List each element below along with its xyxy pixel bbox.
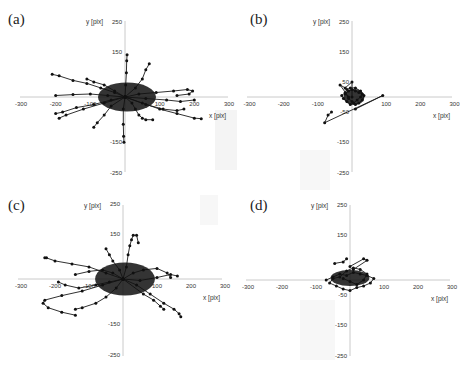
data-point (342, 288, 345, 291)
y-tick-label: 150 (112, 49, 123, 55)
data-point (176, 109, 179, 112)
x-tick-label: -100 (312, 101, 325, 107)
data-point (152, 299, 155, 302)
y-tick-label: -250 (110, 170, 123, 176)
data-point (127, 253, 130, 256)
data-point (372, 277, 375, 280)
x-tick-label: 300 (449, 101, 460, 107)
panel-label: (d) (250, 197, 268, 214)
x-axis-title: x [pix] (209, 112, 226, 120)
y-axis-title: y [pix] (84, 202, 101, 210)
data-point (342, 260, 345, 263)
data-point (111, 259, 114, 262)
y-tick-label: -250 (108, 352, 121, 358)
x-tick-label: 300 (224, 101, 235, 107)
data-point (169, 276, 172, 279)
data-point (74, 273, 77, 276)
dense-cluster (98, 82, 156, 111)
data-point (54, 112, 57, 115)
data-point (193, 117, 196, 120)
data-point (103, 114, 106, 117)
data-point (142, 293, 145, 296)
dense-cluster (343, 89, 364, 105)
data-point (94, 302, 97, 305)
data-point (108, 253, 111, 256)
scan-noise (200, 110, 335, 360)
data-point (156, 267, 159, 270)
data-point (141, 117, 144, 120)
data-point (325, 279, 328, 282)
data-point (74, 308, 77, 311)
data-point (75, 106, 78, 109)
data-point (351, 80, 354, 83)
data-point (349, 86, 352, 89)
data-point (103, 83, 106, 86)
data-point (178, 312, 181, 315)
data-point (362, 257, 365, 260)
data-point (81, 306, 84, 309)
y-tick-label: -150 (337, 139, 350, 145)
y-axis-title: y [pix] (86, 18, 103, 26)
data-point (85, 82, 88, 85)
data-point (328, 282, 331, 285)
data-point (144, 118, 147, 121)
data-point (149, 293, 152, 296)
data-point (166, 271, 169, 274)
data-point (88, 265, 91, 268)
y-tick-label: 50 (342, 79, 349, 85)
data-point (366, 259, 369, 262)
x-tick-label: -100 (310, 284, 323, 290)
data-point (323, 121, 326, 124)
data-point (54, 94, 57, 97)
data-point (362, 285, 365, 288)
data-point (193, 99, 196, 102)
data-point (64, 284, 67, 287)
y-tick-label: 250 (110, 201, 121, 207)
data-point (345, 257, 348, 260)
x-tick-label: -200 (278, 101, 291, 107)
x-tick-label: -200 (276, 284, 289, 290)
y-axis-title: y [pix] (311, 202, 328, 210)
data-point (344, 86, 347, 89)
data-point (182, 108, 185, 111)
data-point (89, 92, 92, 95)
data-point (340, 94, 343, 97)
x-tick-label: 200 (189, 101, 200, 107)
data-point (141, 77, 144, 80)
data-point (137, 114, 140, 117)
data-point (58, 74, 61, 77)
data-point (65, 114, 68, 117)
data-point (125, 71, 128, 74)
data-point (354, 108, 357, 111)
x-axis-title: x [pix] (431, 295, 448, 303)
data-point (99, 86, 102, 89)
data-point (71, 262, 74, 265)
data-point (162, 302, 165, 305)
data-point (188, 92, 191, 95)
data-point (349, 265, 352, 268)
data-point (137, 241, 140, 244)
data-point (122, 123, 125, 126)
data-point (72, 93, 75, 96)
data-point (354, 86, 357, 89)
x-tick-label: -300 (15, 283, 28, 289)
data-point (135, 234, 138, 237)
data-point (159, 305, 162, 308)
x-tick-label: -300 (243, 101, 256, 107)
y-tick-label: -150 (110, 139, 123, 145)
data-point (173, 308, 176, 311)
data-point (105, 296, 108, 299)
data-point (85, 77, 88, 80)
y-tick-label: 150 (337, 232, 348, 238)
data-point (162, 308, 165, 311)
data-point (60, 311, 63, 314)
data-point (57, 281, 60, 284)
y-tick-label: -150 (335, 322, 348, 328)
trajectory-line (335, 259, 347, 264)
data-point (72, 79, 75, 82)
y-tick-label: 250 (337, 202, 348, 208)
x-tick-label: 200 (413, 284, 424, 290)
data-point (151, 118, 154, 121)
data-point (88, 270, 91, 273)
x-tick-label: 100 (381, 101, 392, 107)
